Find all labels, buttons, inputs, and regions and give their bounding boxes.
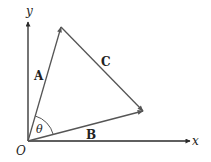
- vector-a: [28, 27, 61, 141]
- y-axis-label: y: [25, 4, 33, 18]
- vector-c: [61, 27, 143, 111]
- vector-b-label: B: [86, 128, 96, 142]
- vector-c-label: C: [101, 55, 111, 69]
- vector-diagram: y x O A B C θ: [0, 0, 211, 162]
- origin-label: O: [16, 144, 26, 158]
- angle-theta-label: θ: [36, 123, 43, 136]
- x-axis-label: x: [192, 134, 199, 148]
- vector-a-label: A: [33, 69, 44, 83]
